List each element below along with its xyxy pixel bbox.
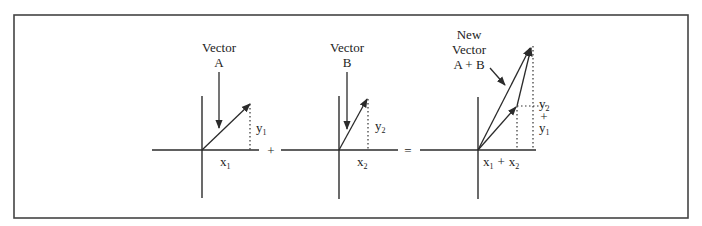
y2-label: y2 — [375, 118, 386, 135]
sum-title-line3: A + B — [453, 57, 485, 72]
resultant-vector-arrow — [478, 48, 530, 150]
panel-vector-a: Vector A y1 x1 — [152, 40, 267, 198]
vector-b-component-arrow — [517, 48, 531, 106]
y1-label: y1 — [256, 120, 267, 137]
y1-label: y1 — [539, 120, 550, 137]
vector-b-arrow — [339, 99, 367, 150]
equals-operator: = — [404, 143, 411, 158]
sum-title-line1: New — [457, 27, 482, 42]
vector-a-title-line1: Vector — [202, 40, 237, 55]
vector-b-title-line2: B — [343, 55, 352, 70]
panel-vector-b: Vector B y2 x2 — [281, 40, 398, 199]
vector-b-title-line1: Vector — [330, 40, 365, 55]
x2-label: x2 — [357, 154, 368, 171]
vector-a-arrow — [202, 104, 250, 150]
vector-a-title-line2: A — [214, 55, 224, 70]
x1-label: x1 — [220, 154, 231, 171]
vector-addition-diagram: Vector A y1 x1 + Vector B y2 x2 = New — [0, 0, 702, 226]
sum-title-line2: Vector — [452, 42, 487, 57]
plus-operator: + — [267, 143, 274, 158]
x-sum-label: x1+x2 — [483, 154, 519, 171]
sum-label-leader-arrow — [490, 68, 505, 85]
panel-vector-sum: New Vector A + B y2 + y1 x1+x2 — [420, 27, 550, 199]
